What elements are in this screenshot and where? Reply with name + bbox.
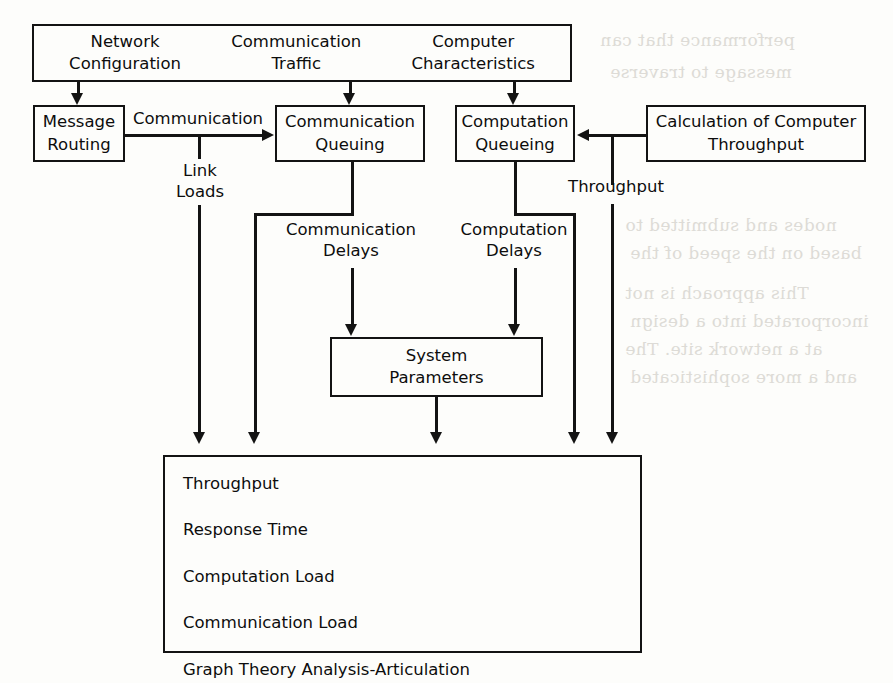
bleed-text: This approach is not: [625, 283, 809, 303]
connector-computation-queueing-out: [514, 162, 517, 216]
output-item: Graph Theory Analysis-Articulation: [183, 659, 622, 680]
connector-link-loads-tap: [198, 135, 201, 159]
arrowhead-down-icon: [343, 93, 355, 105]
box-message-routing: Message Routing: [33, 105, 125, 162]
bleed-text: at a network site. The: [625, 339, 822, 359]
box-computation-queueing-label: Computation Queueing: [462, 111, 569, 156]
arrowhead-down-icon: [193, 432, 205, 444]
connector-computation-branch: [514, 213, 576, 216]
connector-calculation-to-computation-queueing: [588, 134, 646, 137]
box-system-parameters: System Parameters: [330, 337, 543, 397]
connector-communication-queuing-out: [351, 162, 354, 216]
inputs-box: Network Configuration Communication Traf…: [32, 24, 572, 82]
input-network-configuration: Network Configuration: [69, 31, 181, 76]
arrowhead-down-icon: [248, 432, 260, 444]
arrowhead-down-icon: [568, 432, 580, 444]
output-item: Computation Load: [183, 566, 622, 587]
diagram-canvas: performance that can message to traverse…: [0, 0, 893, 683]
connector-link-loads-to-outputs: [198, 205, 201, 433]
connector-throughput-to-outputs: [611, 204, 614, 433]
arrowhead-down-icon: [508, 324, 520, 336]
arrowhead-down-icon: [606, 432, 618, 444]
output-item: Response Time: [183, 519, 622, 540]
connector-computation-delays-to-system-parameters: [514, 268, 517, 325]
arrowhead-right-icon: [262, 129, 274, 141]
output-item: Throughput: [183, 473, 622, 494]
box-computation-queueing: Computation Queueing: [455, 105, 575, 162]
box-communication-queuing: Communication Queuing: [275, 105, 425, 162]
arrowhead-down-icon: [430, 432, 442, 444]
edge-label-link-loads: Link Loads: [155, 160, 245, 203]
bleed-text: nodes and submitted to: [625, 215, 837, 235]
edge-label-computation-delays: Computation Delays: [444, 219, 584, 262]
edge-label-communication-delays: Communication Delays: [276, 219, 426, 262]
arrowhead-down-icon: [71, 93, 83, 105]
arrowhead-down-icon: [345, 324, 357, 336]
connector-communication-direct-to-outputs: [254, 213, 257, 433]
bleed-text: message to traverse: [610, 62, 792, 82]
outputs-list: Throughput Response Time Computation Loa…: [183, 473, 622, 680]
connector-system-parameters-to-outputs: [435, 397, 438, 433]
input-computer-characteristics: Computer Characteristics: [412, 31, 535, 76]
box-system-parameters-label: System Parameters: [389, 345, 483, 390]
arrowhead-left-icon: [577, 129, 589, 141]
box-communication-queuing-label: Communication Queuing: [285, 111, 415, 156]
connector-communication-branch: [254, 213, 354, 216]
outputs-box: Throughput Response Time Computation Loa…: [163, 455, 642, 653]
bleed-text: incorporated into a design: [630, 311, 869, 331]
input-communication-traffic: Communication Traffic: [231, 31, 361, 76]
arrowhead-down-icon: [507, 93, 519, 105]
edge-label-communication: Communication: [133, 108, 283, 129]
bleed-text: based on the speed of the: [630, 243, 862, 263]
box-calculation-of-computer-throughput-label: Calculation of Computer Throughput: [656, 111, 856, 156]
box-message-routing-label: Message Routing: [43, 111, 115, 156]
edge-label-throughput: Throughput: [566, 176, 666, 197]
connector-communication-delays-to-system-parameters: [351, 268, 354, 325]
bleed-text: performance that can: [600, 30, 795, 50]
box-calculation-of-computer-throughput: Calculation of Computer Throughput: [646, 105, 866, 162]
connector-message-routing-to-communication-queuing: [125, 134, 263, 137]
output-item: Communication Load: [183, 612, 622, 633]
bleed-text: and a more sophisticated: [630, 367, 857, 387]
